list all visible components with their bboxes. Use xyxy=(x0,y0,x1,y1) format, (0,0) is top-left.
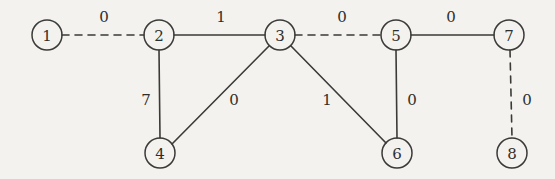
graph-canvas: 010070100 12345678 xyxy=(0,0,555,179)
node-4: 4 xyxy=(145,138,175,168)
edge-5-6 xyxy=(396,50,397,138)
edges-layer xyxy=(62,35,512,144)
edge-weight-5-7: 0 xyxy=(446,8,456,26)
node-8: 8 xyxy=(497,138,527,168)
node-1: 1 xyxy=(32,20,62,50)
node-label-4: 4 xyxy=(155,145,165,163)
edge-weight-3-4: 0 xyxy=(229,91,239,109)
node-label-2: 2 xyxy=(154,27,164,45)
node-label-7: 7 xyxy=(504,27,514,45)
edge-2-4 xyxy=(159,50,160,138)
edge-weight-2-4: 7 xyxy=(141,91,151,109)
node-label-5: 5 xyxy=(391,27,401,45)
nodes-layer: 12345678 xyxy=(32,20,527,168)
node-label-1: 1 xyxy=(42,27,52,45)
node-5: 5 xyxy=(381,20,411,50)
node-3: 3 xyxy=(265,20,295,50)
edge-weight-3-6: 1 xyxy=(322,91,332,109)
edge-weight-1-2: 0 xyxy=(99,8,109,26)
node-label-6: 6 xyxy=(392,145,402,163)
edge-3-4 xyxy=(172,46,269,144)
edge-weight-2-3: 1 xyxy=(216,8,226,26)
node-7: 7 xyxy=(494,20,524,50)
edge-7-8 xyxy=(510,50,512,138)
node-2: 2 xyxy=(144,20,174,50)
node-label-8: 8 xyxy=(507,145,517,163)
edge-weight-5-6: 0 xyxy=(407,91,417,109)
edge-weight-7-8: 0 xyxy=(522,91,532,109)
node-6: 6 xyxy=(382,138,412,168)
edge-labels-layer: 010070100 xyxy=(99,8,532,109)
graph-figure: 010070100 12345678 xyxy=(0,0,555,179)
edge-3-6 xyxy=(291,46,386,143)
edge-weight-3-5: 0 xyxy=(337,8,347,26)
node-label-3: 3 xyxy=(275,27,285,45)
